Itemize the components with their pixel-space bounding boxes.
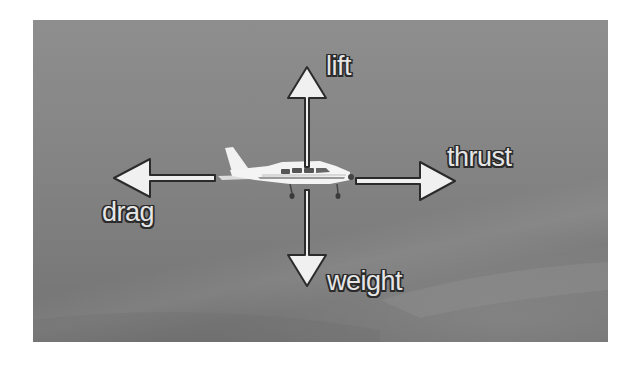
lift-arrow-icon: [288, 67, 326, 167]
weight-arrow-icon: [288, 190, 326, 286]
airplane-photo: lift weight drag thrust: [33, 20, 608, 342]
airplane-icon: [218, 147, 354, 199]
drag-arrow-icon: [114, 159, 215, 197]
weight-label: weight: [327, 268, 402, 295]
thrust-label: thrust: [447, 144, 512, 171]
drag-label: drag: [102, 199, 154, 226]
lift-label: lift: [326, 53, 351, 80]
forces-diagram: [33, 20, 608, 342]
thrust-arrow-icon: [356, 162, 455, 200]
